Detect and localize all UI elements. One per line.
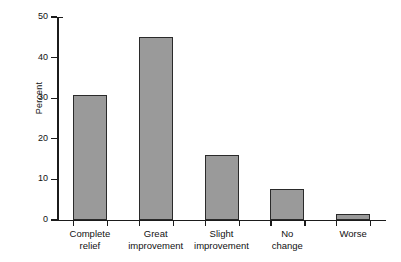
x-axis-category-label: Great improvement — [123, 228, 189, 251]
x-axis-category-label: Complete relief — [57, 228, 123, 251]
x-axis-tick-mark — [270, 221, 271, 226]
x-axis-tick-mark — [205, 221, 206, 226]
y-axis-tick-label: 0 — [8, 215, 48, 224]
bar-chart: Percent 50403020100 Complete reliefGreat… — [0, 0, 401, 262]
x-axis-tick-mark — [107, 221, 108, 226]
y-axis-tick-mark — [51, 16, 57, 17]
x-axis-category-label: Slight improvement — [189, 228, 255, 251]
y-axis-tick-label: 50 — [8, 12, 48, 21]
x-axis-tick-mark — [139, 221, 140, 226]
x-axis-tick-mark — [73, 221, 74, 226]
y-axis-tick-mark — [51, 98, 57, 99]
x-axis-tick-mark — [336, 221, 337, 226]
bar — [205, 155, 239, 220]
y-axis-tick-mark — [51, 219, 57, 220]
y-axis-tick-mark — [51, 57, 57, 58]
y-axis-tick-mark — [51, 138, 57, 139]
bar — [270, 189, 304, 220]
y-axis-tick-mark — [51, 179, 57, 180]
y-axis-tick-label: 40 — [8, 53, 48, 62]
x-axis-tick-mark — [370, 221, 371, 226]
y-axis-tick-label: 20 — [8, 134, 48, 143]
y-axis-tick-label: 30 — [8, 93, 48, 102]
y-axis-tick-label: 10 — [8, 174, 48, 183]
y-axis-line — [57, 17, 59, 221]
x-axis-tick-mark — [239, 221, 240, 226]
x-axis-tick-mark — [304, 221, 305, 226]
bar — [73, 95, 107, 220]
x-axis-category-label: No change — [254, 228, 320, 251]
y-axis-top-cap — [57, 17, 63, 18]
bar — [336, 214, 370, 220]
bar — [139, 37, 173, 220]
x-axis-tick-mark — [173, 221, 174, 226]
x-axis-category-label: Worse — [320, 228, 386, 240]
